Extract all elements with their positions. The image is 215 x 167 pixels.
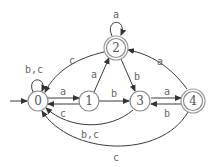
edge-label-4-2: a	[157, 56, 163, 67]
edge-label-1-3: b	[111, 88, 117, 99]
edge-2-2	[110, 22, 122, 36]
state-1: 1	[79, 91, 99, 111]
edge-0-0	[32, 80, 43, 92]
edge-label-3-0: b,c	[81, 129, 99, 140]
state-label-0: 0	[34, 94, 42, 108]
edge-label-3-4: a	[164, 86, 170, 97]
state-label-2: 2	[112, 41, 120, 55]
edge-label-0-1: a	[60, 86, 66, 97]
automaton-diagram: b,c a c a b a c b a b a b,c c 0 1 2	[0, 0, 215, 167]
state-label-1: 1	[85, 94, 93, 108]
state-label-3: 3	[136, 94, 144, 108]
state-3: 3	[130, 91, 150, 111]
edge-2-3	[121, 59, 135, 91]
state-0: 0	[28, 91, 48, 111]
edge-label-2-2: a	[113, 9, 119, 20]
edge-label-4-3: b	[164, 108, 170, 119]
edge-label-0-0: b,c	[25, 64, 43, 75]
edge-label-1-2: a	[91, 69, 97, 80]
state-4-accepting: 4	[181, 89, 205, 113]
state-label-4: 4	[189, 94, 197, 108]
edge-label-2-0: c	[69, 55, 75, 66]
edge-label-4-0: c	[113, 152, 119, 163]
state-2-accepting: 2	[104, 36, 128, 60]
edge-label-2-3: b	[134, 71, 140, 82]
edge-label-1-0: c	[60, 108, 66, 119]
